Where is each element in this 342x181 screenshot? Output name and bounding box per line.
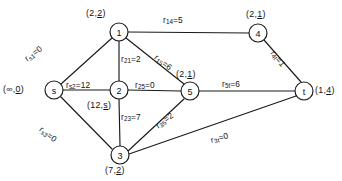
node-3-tag: (7,2) — [105, 166, 125, 175]
node-4-tag-capacity: (2, — [246, 9, 257, 19]
node-4-label: 4 — [255, 29, 260, 39]
edge-label-s2: rs2=12 — [66, 81, 90, 91]
node-layer: s12345t — [45, 23, 313, 164]
edge-label-21-value: 2 — [136, 54, 141, 64]
node-s-tag: (∞,0) — [3, 85, 24, 94]
edge-label-25-value: 0 — [150, 80, 155, 90]
node-3-tag-close: ) — [121, 165, 124, 175]
node-4-tag: (2,1) — [246, 10, 266, 19]
edge-label-21: r21=2 — [121, 55, 141, 65]
node-5-label: 5 — [187, 87, 192, 97]
node-4-tag-close: ) — [262, 9, 265, 19]
node-5-tag-capacity: (2, — [176, 69, 187, 79]
edge-label-s2-value: 12 — [81, 80, 91, 90]
node-3-label: 3 — [117, 151, 122, 161]
edge-label-14-value: 5 — [178, 15, 183, 25]
edge-23: 23 — [119, 99, 120, 146]
node-5-tag-close: ) — [192, 69, 195, 79]
graph-canvas: s1s2s31421152523353t5t4t s12345t — [0, 0, 342, 181]
node-t-tag-close: ) — [331, 85, 334, 95]
node-1-tag-capacity: (2, — [86, 8, 97, 18]
node-1-tag-close: ) — [102, 8, 105, 18]
node-5-tag: (2,1) — [176, 70, 196, 79]
node-s-label: s — [52, 86, 57, 96]
node-1-tag: (2,2) — [86, 9, 106, 18]
edge-label-23: r23=7 — [121, 113, 141, 123]
edge-label-23-value: 7 — [136, 112, 141, 122]
node-1-label: 1 — [116, 28, 121, 38]
node-2-label: 2 — [116, 86, 121, 96]
edge-label-5t-value: 6 — [235, 79, 240, 89]
edge-s1: s1 — [61, 38, 112, 84]
network-flow-diagram: s1s2s31421152523353t5t4t s12345t rs1=0rs… — [0, 0, 342, 181]
edge-label-23-subscript: 23 — [124, 115, 131, 122]
node-t-tag-capacity: (1, — [315, 85, 326, 95]
edge-14: 14 — [128, 32, 249, 33]
edge-label-s2-subscript: s2 — [69, 83, 76, 90]
node-s-tag-close: ) — [21, 84, 24, 94]
edge-label-14-subscript: 14 — [166, 18, 173, 25]
edge-label-14: r14=5 — [163, 16, 183, 26]
node-2-tag-close: ) — [108, 100, 111, 110]
node-2-tag: (12,s) — [87, 101, 111, 110]
edge-label-25: r25=0 — [135, 81, 155, 91]
node-s-tag-capacity: (∞, — [3, 84, 16, 94]
edge-label-21-subscript: 21 — [124, 57, 131, 64]
edge-label-5t: r5t=6 — [222, 80, 240, 90]
node-3-tag-capacity: (7, — [105, 165, 116, 175]
node-t-tag: (1,4) — [315, 86, 335, 95]
edge-label-25-subscript: 25 — [138, 83, 145, 90]
node-2-tag-capacity: (12, — [87, 100, 103, 110]
